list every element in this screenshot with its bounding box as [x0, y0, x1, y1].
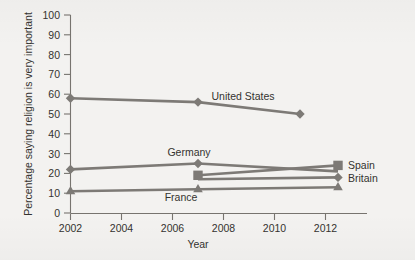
series-label-spain: Spain — [348, 159, 375, 171]
y-tick-label-30: 30 — [48, 148, 60, 160]
series-label-united-states: United States — [211, 90, 274, 102]
series-label-france: France — [165, 191, 198, 203]
y-tick-label-70: 70 — [48, 68, 60, 80]
line-chart-canvas: 100 90 80 70 60 50 40 30 20 10 0 2002 20… — [0, 0, 415, 260]
series-label-britain: Britain — [348, 172, 378, 184]
y-tick-label-60: 60 — [48, 88, 60, 100]
y-tick-labels: 100 90 80 70 60 50 40 30 20 10 0 — [42, 9, 60, 219]
y-tick-label-100: 100 — [42, 9, 60, 21]
y-tick-label-40: 40 — [48, 128, 60, 140]
x-tick-label-2004: 2004 — [110, 222, 134, 234]
y-tick-label-90: 90 — [48, 29, 60, 41]
series-france — [66, 182, 343, 194]
y-tick-label-20: 20 — [48, 167, 60, 179]
y-axis-title: Percentage saying religion is very impor… — [22, 12, 34, 216]
y-tick-label-80: 80 — [48, 49, 60, 61]
x-tick-labels: 2002 2004 2006 2008 2010 2012 — [59, 222, 338, 234]
series-label-germany: Germany — [167, 146, 211, 158]
y-tick-label-0: 0 — [54, 207, 60, 219]
x-tick-label-2012: 2012 — [314, 222, 338, 234]
chart-figure: 100 90 80 70 60 50 40 30 20 10 0 2002 20… — [0, 0, 415, 260]
x-tick-label-2010: 2010 — [263, 222, 287, 234]
x-tick-label-2008: 2008 — [212, 222, 236, 234]
x-axis-title: Year — [187, 238, 209, 250]
y-tick-label-10: 10 — [48, 187, 60, 199]
x-tick-label-2006: 2006 — [161, 222, 185, 234]
y-tick-label-50: 50 — [48, 108, 60, 120]
x-axis — [71, 214, 368, 221]
y-axis — [64, 15, 71, 213]
x-tick-label-2002: 2002 — [59, 222, 83, 234]
